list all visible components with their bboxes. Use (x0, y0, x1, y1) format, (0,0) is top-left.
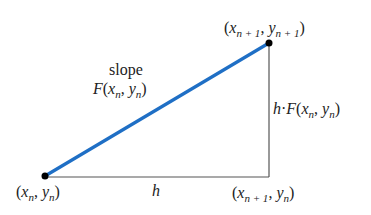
var: h (273, 100, 281, 117)
sub: n + 1 (244, 192, 268, 204)
var: x (301, 100, 308, 117)
var: F (286, 100, 296, 117)
paren: ) (141, 80, 146, 97)
end-point (266, 40, 273, 47)
paren: ) (335, 100, 340, 117)
start-point (42, 173, 49, 180)
slope-word-label: slope (109, 62, 143, 78)
comma: , (314, 100, 322, 117)
corner-point-label: (xn + 1, yn) (232, 185, 294, 201)
slope-formula-label: F(xn, yn) (93, 81, 147, 97)
secant-line (45, 43, 269, 176)
comma: , (121, 80, 129, 97)
var: h (152, 182, 160, 199)
end-point-label: (xn + 1, yn + 1) (224, 20, 305, 36)
paren: ) (55, 183, 60, 200)
var: y (129, 80, 136, 97)
var: y (42, 183, 49, 200)
paren: ) (299, 19, 304, 36)
sub: n + 1 (275, 27, 299, 39)
comma: , (34, 183, 42, 200)
var: F (93, 80, 103, 97)
paren: ) (289, 184, 294, 201)
sub: n + 1 (236, 27, 260, 39)
step-size-label: h (152, 183, 160, 199)
rise-label: h·F(xn, yn) (273, 101, 340, 117)
start-point-label: (xn, yn) (16, 184, 60, 200)
